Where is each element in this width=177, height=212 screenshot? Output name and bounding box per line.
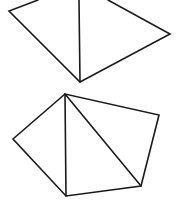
bottom-shape-diagonal-vertical: [65, 94, 66, 196]
geometry-figure: [0, 0, 177, 212]
diagram-canvas: [0, 0, 177, 212]
top-quadrilateral: [9, 0, 170, 82]
top-shape-outline: [9, 0, 170, 82]
bottom-pentagon: [13, 94, 159, 196]
top-shape-diagonal: [79, 0, 80, 82]
